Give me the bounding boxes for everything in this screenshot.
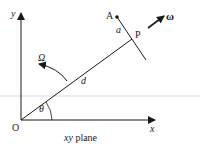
line-AP [117,17,146,60]
xy-plane-diagram [0,0,200,147]
theta-arc [46,102,52,120]
point-P-label: P [135,30,141,40]
point-A-label: A [106,11,113,21]
caption-xy: xy [64,132,73,143]
omega-label: ω [166,11,174,22]
Omega-label: Ω [38,53,45,63]
omega-arrow [148,16,164,28]
x-axis-label: x [150,124,154,134]
distance-a-label: a [116,25,121,35]
caption-plane: plane [75,132,97,143]
distance-d-label: d [81,76,86,86]
point-A-dot [115,15,119,19]
Omega-arc-arrow [39,64,67,81]
origin-label: O [12,123,19,133]
caption-xy-plane: xy plane [64,133,97,143]
y-axis-label: y [11,9,15,19]
angle-theta-label: θ [39,104,44,114]
